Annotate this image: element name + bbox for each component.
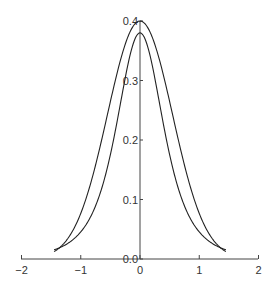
chart: −2−1012 0.00.10.20.30.4 (0, 0, 276, 290)
y-tick-label: 0.1 (123, 194, 138, 206)
x-tick-label: 1 (196, 264, 202, 276)
x-tick-label: −2 (15, 264, 28, 276)
y-tick-label: 0.0 (123, 253, 138, 265)
x-tick-label: 2 (255, 264, 261, 276)
axes (21, 21, 258, 259)
y-tick-label: 0.4 (123, 15, 138, 27)
x-tick-label: −1 (74, 264, 87, 276)
y-tick-label: 0.2 (123, 134, 138, 146)
x-tick-label: 0 (137, 264, 143, 276)
x-ticks: −2−1012 (15, 255, 261, 276)
